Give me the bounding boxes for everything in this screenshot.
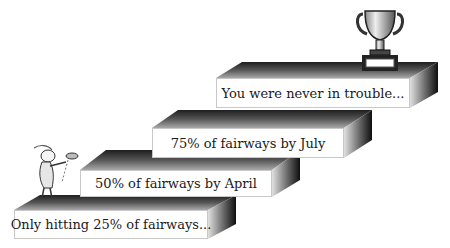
step-1-label: Only hitting 25% of fairways...: [14, 210, 208, 239]
step-2-label: 50% of fairways by April: [80, 170, 272, 197]
step-4-label: You were never in trouble...: [216, 78, 410, 108]
golfer-illustration: [28, 142, 84, 200]
step-3-label: 75% of fairways by July: [152, 128, 344, 158]
trophy-icon: [355, 8, 405, 76]
